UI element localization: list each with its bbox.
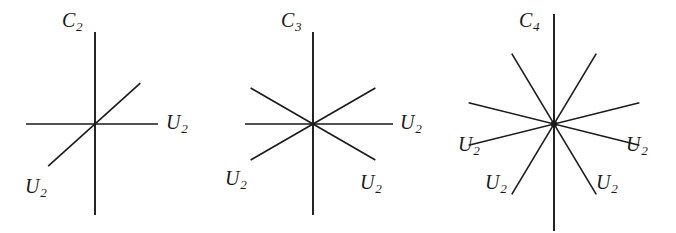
axis-symbol: U: [25, 175, 40, 197]
axis-symbol: U: [225, 167, 240, 189]
label-u2-right: U2: [400, 112, 421, 132]
label-u2-lower-left: U2: [485, 172, 506, 192]
axis-symbol: U: [485, 171, 500, 193]
axis-symbol: C: [62, 9, 76, 31]
axis-order-subscript: 2: [641, 143, 648, 158]
diagram-panel-c4: C4U2U2U2U2: [450, 0, 676, 233]
axis-order-subscript: 2: [76, 19, 83, 34]
axis-order-subscript: 4: [533, 19, 540, 34]
axes-drawing-c2: [0, 0, 225, 233]
axis-order-subscript: 2: [181, 121, 188, 136]
label-u2-lower-left: U2: [225, 168, 246, 188]
center-point-marker: [551, 121, 557, 127]
axis-symbol: U: [626, 133, 641, 155]
axis-symbol: U: [458, 133, 473, 155]
label-principal-c3: C3: [281, 10, 301, 30]
diagram-panel-c2: C2U2U2: [0, 0, 225, 233]
axis-order-subscript: 2: [40, 185, 47, 200]
axis-order-subscript: 2: [240, 177, 247, 192]
axis-symbol: U: [400, 111, 415, 133]
axis-order-subscript: 2: [375, 181, 382, 196]
axes-drawing-c4: [450, 0, 676, 233]
axis-order-subscript: 2: [500, 181, 507, 196]
axis-symbol: U: [360, 171, 375, 193]
label-u2-left: U2: [458, 134, 479, 154]
axis-order-subscript: 2: [473, 143, 480, 158]
axis-symbol: U: [166, 111, 181, 133]
diagram-panel-c3: C3U2U2U2: [225, 0, 450, 233]
axis-order-subscript: 2: [611, 181, 618, 196]
label-u2-lower-left: U2: [25, 176, 46, 196]
symmetry-axes-figure: C2U2U2 C3U2U2U2 C4U2U2U2U2: [0, 0, 676, 233]
axis-order-subscript: 3: [295, 19, 302, 34]
label-u2-right: U2: [166, 112, 187, 132]
label-u2-lower-right: U2: [360, 172, 381, 192]
label-principal-c4: C4: [519, 10, 539, 30]
axis-symbol: C: [281, 9, 295, 31]
axis-symbol: C: [519, 9, 533, 31]
axis-symbol: U: [596, 171, 611, 193]
axis-order-subscript: 2: [415, 121, 422, 136]
label-u2-lower-right: U2: [596, 172, 617, 192]
label-principal-c2: C2: [62, 10, 82, 30]
label-u2-right: U2: [626, 134, 647, 154]
